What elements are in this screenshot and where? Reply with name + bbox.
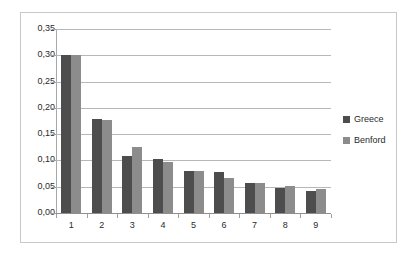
bar-benford-7	[255, 183, 265, 213]
x-axis-tick-label: 7	[245, 220, 265, 230]
legend-item-greece[interactable]: Greece	[343, 114, 386, 124]
x-axis-tick-label: 1	[61, 220, 81, 230]
y-axis-tick-label: 0,10	[21, 154, 55, 164]
bar-greece-3	[122, 156, 132, 213]
axis-baseline	[56, 213, 331, 214]
chart-frame: 0,000,050,100,150,200,250,300,35 1234567…	[20, 12, 397, 243]
x-axis-tick-label: 8	[275, 220, 295, 230]
bar-greece-5	[184, 171, 194, 213]
chart-legend: GreeceBenford	[343, 114, 386, 156]
legend-swatch-greece	[343, 116, 350, 123]
legend-item-benford[interactable]: Benford	[343, 135, 386, 145]
x-axis-tick-label: 5	[184, 220, 204, 230]
y-axis-tick-label: 0,20	[21, 102, 55, 112]
gridline	[56, 55, 331, 56]
y-axis-tick-label: 0,00	[21, 207, 55, 217]
x-axis-tick	[148, 214, 149, 218]
x-axis-tick	[209, 214, 210, 218]
gridline	[56, 108, 331, 109]
y-axis-tick-label: 0,30	[21, 49, 55, 59]
y-axis-tick-label: 0,25	[21, 76, 55, 86]
x-axis-tick	[117, 214, 118, 218]
legend-swatch-benford	[343, 137, 350, 144]
bar-benford-6	[224, 178, 234, 213]
legend-item-label: Benford	[354, 135, 386, 145]
gridline	[56, 82, 331, 83]
x-axis-tick-label: 3	[122, 220, 142, 230]
legend-item-label: Greece	[354, 114, 384, 124]
plot-area	[56, 29, 331, 213]
bar-greece-8	[275, 188, 285, 213]
x-axis-tick-label: 9	[306, 220, 326, 230]
x-axis-tick-label: 4	[153, 220, 173, 230]
x-axis-tick	[87, 214, 88, 218]
bar-greece-6	[214, 172, 224, 213]
bar-benford-2	[102, 120, 112, 213]
bar-greece-7	[245, 183, 255, 213]
bar-greece-9	[306, 191, 316, 213]
x-axis-tick	[300, 214, 301, 218]
x-axis-tick-label: 2	[92, 220, 112, 230]
bar-benford-8	[285, 186, 295, 213]
x-axis-tick	[178, 214, 179, 218]
x-axis-tick	[270, 214, 271, 218]
bar-greece-1	[61, 55, 71, 213]
x-axis-tick-label: 6	[214, 220, 234, 230]
bar-greece-4	[153, 159, 163, 213]
y-axis-tick-label: 0,15	[21, 128, 55, 138]
bar-benford-9	[316, 189, 326, 213]
y-axis-tick-label: 0,35	[21, 23, 55, 33]
y-axis-tick-label: 0,05	[21, 181, 55, 191]
bar-greece-2	[92, 119, 102, 213]
bar-benford-5	[194, 171, 204, 213]
x-axis-tick	[331, 214, 332, 218]
gridline	[56, 29, 331, 30]
bar-benford-4	[163, 162, 173, 213]
bar-benford-3	[132, 147, 142, 213]
x-axis-tick	[239, 214, 240, 218]
x-axis-tick	[56, 214, 57, 218]
bar-benford-1	[71, 55, 81, 213]
